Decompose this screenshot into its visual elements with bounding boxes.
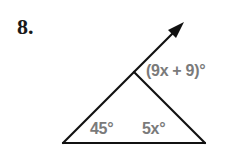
exterior-angle-label: (9x + 9)° (146, 62, 205, 80)
angle-right-label: 5x° (142, 120, 165, 138)
angle-left-label: 45° (90, 120, 113, 138)
